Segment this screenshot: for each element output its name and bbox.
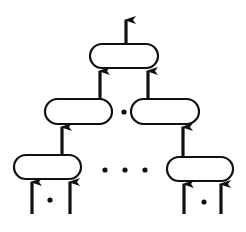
node-root [90, 44, 158, 68]
dot-leaf-left-input-dot [47, 197, 52, 202]
tree-diagram [0, 0, 246, 232]
dot-mid-level-dot [121, 109, 126, 114]
dot-leaf-level-dot-3 [142, 167, 147, 172]
node-leaf-left [14, 155, 81, 179]
node-leaf-right [167, 157, 233, 181]
node-mid-right [131, 99, 199, 124]
node-mid-left [45, 99, 112, 124]
dot-leaf-level-dot-2 [122, 167, 127, 172]
dot-leaf-right-input-dot [201, 199, 206, 204]
dot-leaf-level-dot-1 [102, 167, 107, 172]
